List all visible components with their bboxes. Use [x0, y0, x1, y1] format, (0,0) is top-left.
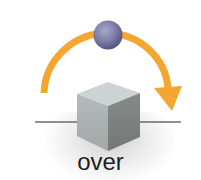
preposition-label: over [0, 148, 201, 176]
ball [94, 21, 123, 50]
preposition-diagram: over [0, 0, 201, 180]
cube-object [77, 82, 140, 151]
